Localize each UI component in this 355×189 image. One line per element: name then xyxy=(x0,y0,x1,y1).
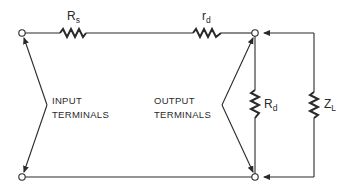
input-terminals-label-line1: INPUT xyxy=(52,95,82,106)
output-terminals-label-line2: TERMINALS xyxy=(154,109,211,120)
input-arrow-bottom xyxy=(24,105,47,172)
input-terminal-bottom xyxy=(19,174,25,180)
load-impedance-label: ZL xyxy=(324,97,336,113)
load-impedance-zigzag xyxy=(310,92,318,118)
source-resistor-zigzag xyxy=(60,29,86,37)
output-terminals-label-line1: OUTPUT xyxy=(154,95,195,106)
source-resistor-label: Rs xyxy=(67,9,80,25)
shunt-resistor-zigzag xyxy=(251,90,259,118)
series-resistor-label: rd xyxy=(202,9,211,25)
series-resistor-zigzag xyxy=(193,29,221,37)
circuit-diagram: Rs rd Rd ZL INPUT TERMINALS OUTPUT TERMI… xyxy=(0,0,355,189)
input-terminal-top xyxy=(19,30,25,36)
output-arrow-bottom xyxy=(222,105,253,172)
output-terminal-bottom xyxy=(252,174,258,180)
shunt-resistor-label: Rd xyxy=(264,97,278,113)
output-terminal-top xyxy=(252,30,258,36)
input-terminals-label-line2: TERMINALS xyxy=(52,109,109,120)
output-arrow-top xyxy=(222,38,253,105)
input-arrow-top xyxy=(24,38,47,105)
